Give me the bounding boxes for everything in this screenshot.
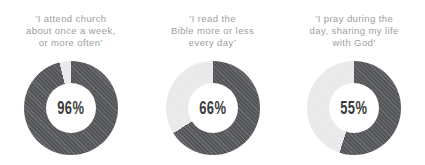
- chart-caption: ’I read the Bible more or less every day…: [171, 13, 254, 49]
- caption-line: day, sharing my life: [310, 25, 399, 37]
- donut-hole: 55%: [329, 83, 379, 133]
- donut-chart-bible-reading: ’I read the Bible more or less every day…: [142, 0, 284, 165]
- donut-hole: 66%: [188, 83, 238, 133]
- donut-ring: 96%: [24, 61, 118, 155]
- caption-line: Bible more or less: [171, 25, 254, 37]
- chart-caption: ’I attend church about once a week, or m…: [26, 13, 116, 49]
- value-label: 96%: [57, 98, 84, 119]
- donut-hole: 96%: [46, 83, 96, 133]
- donut-chart-church-attendance: ’I attend church about once a week, or m…: [0, 0, 142, 165]
- caption-line: ’I attend church: [26, 13, 116, 25]
- caption-line: about once a week,: [26, 25, 116, 37]
- value-label: 66%: [199, 98, 226, 119]
- chart-caption: ’I pray during the day, sharing my life …: [310, 13, 399, 49]
- caption-line: with God’: [310, 37, 399, 49]
- donut-ring: 55%: [307, 61, 401, 155]
- donut-chart-prayer: ’I pray during the day, sharing my life …: [283, 0, 425, 165]
- caption-line: every day’: [171, 37, 254, 49]
- caption-line: ’I pray during the: [310, 13, 399, 25]
- donut-ring: 66%: [166, 61, 260, 155]
- value-label: 55%: [341, 98, 368, 119]
- caption-line: ’I read the: [171, 13, 254, 25]
- caption-line: or more often’: [26, 37, 116, 49]
